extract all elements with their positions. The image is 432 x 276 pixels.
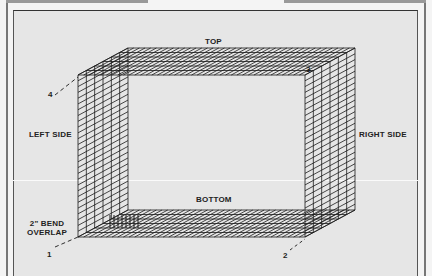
label-bend-overlap: 2" BEND OVERLAP [27, 219, 67, 237]
corner-label-1: 1 [47, 250, 52, 259]
corner-label-3: 3 [306, 65, 311, 74]
corner-label-2: 2 [283, 251, 288, 260]
label-bend-overlap-line2: OVERLAP [27, 228, 67, 237]
label-top: TOP [205, 37, 222, 46]
label-bottom: BOTTOM [196, 195, 232, 204]
label-bend-overlap-line1: 2" BEND [27, 219, 67, 228]
label-left-side: LEFT SIDE [29, 130, 72, 139]
corner-label-4: 4 [48, 90, 53, 99]
label-right-side: RIGHT SIDE [359, 130, 407, 139]
